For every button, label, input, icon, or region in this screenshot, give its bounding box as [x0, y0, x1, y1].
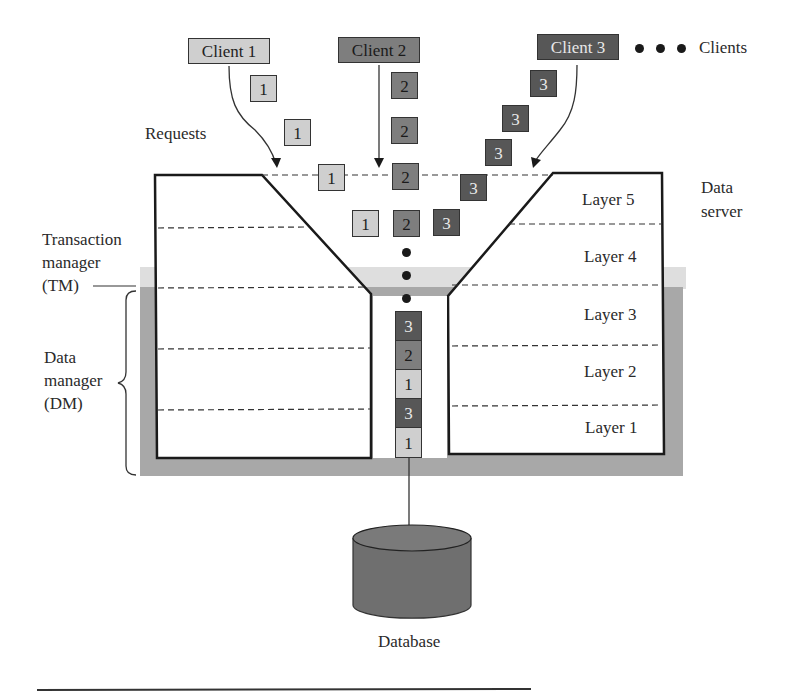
ellipsis-dot: [635, 44, 644, 53]
request-block-client1: 1: [284, 119, 311, 146]
request-block-client1: 1: [352, 210, 379, 237]
request-block-client3: 3: [530, 70, 557, 97]
client1-arrowhead: [271, 158, 281, 168]
layer-2-label: Layer 2: [584, 362, 636, 382]
request-block-client1: 1: [250, 75, 277, 102]
request-block-client2: 2: [391, 72, 418, 99]
queue-block: 1: [395, 427, 422, 458]
client2-arrowhead: [374, 158, 384, 168]
queue-block: 3: [395, 398, 422, 428]
request-block-client3: 3: [502, 105, 529, 132]
client-1-box: Client 1: [188, 38, 270, 64]
database-icon: [353, 525, 471, 618]
ellipsis-dot: [677, 44, 686, 53]
dm-label: Data: [44, 348, 76, 368]
client-3-box: Client 3: [537, 34, 619, 60]
queue-block: 1: [395, 369, 422, 399]
request-block-client2: 2: [393, 210, 420, 237]
request-block-client1: 1: [318, 164, 345, 191]
ellipsis-dot: [656, 44, 665, 53]
bottom-rule: [37, 689, 531, 690]
database-label: Database: [378, 632, 440, 652]
data-server-label: server: [701, 202, 743, 222]
layer-4-label: Layer 4: [584, 247, 636, 267]
dm-brace-icon: [118, 291, 136, 475]
data-server-label: Data: [701, 178, 733, 198]
request-block-client3: 3: [485, 139, 512, 166]
queue-ellipsis-dot: [402, 271, 411, 280]
layer-1-label: Layer 1: [585, 418, 637, 438]
queue-ellipsis-dot: [402, 294, 411, 303]
request-block-client3: 3: [460, 174, 487, 201]
client3-arrowhead: [531, 157, 541, 168]
queue-block: 2: [395, 340, 422, 370]
queue-block: 3: [395, 311, 422, 341]
dm-label: manager: [44, 371, 103, 391]
layer-5-label: Layer 5: [582, 190, 634, 210]
layer-3-label: Layer 3: [584, 305, 636, 325]
request-block-client2: 2: [392, 163, 419, 190]
tm-label: manager: [42, 253, 101, 273]
client-2-box: Client 2: [338, 37, 420, 63]
request-block-client2: 2: [391, 117, 418, 144]
request-block-client3: 3: [433, 209, 460, 236]
clients-label: Clients: [699, 38, 747, 58]
queue-ellipsis-dot: [402, 248, 411, 257]
tm-label: (TM): [42, 276, 79, 296]
dm-label: (DM): [44, 394, 83, 414]
tm-label: Transaction: [42, 230, 122, 250]
left-funnel: [155, 175, 371, 458]
requests-label: Requests: [145, 124, 206, 144]
